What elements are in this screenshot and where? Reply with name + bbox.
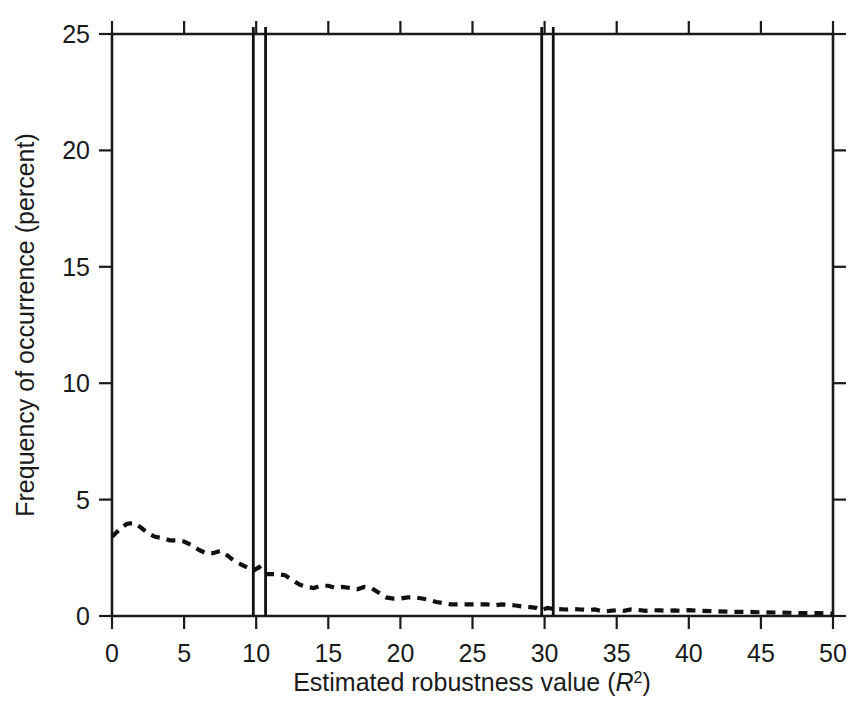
xaxis-tick-label: 45 [747,639,775,667]
xaxis-tick-label: 0 [105,639,119,667]
xaxis-tick-label: 50 [819,639,847,667]
yaxis-tick-label: 15 [62,253,90,281]
yaxis-tick-label: 0 [76,602,90,630]
xaxis-ticks-top [112,21,833,34]
yaxis-tick-labels: 0510152025 [62,20,90,630]
vertical-reference-lines [253,27,553,616]
yaxis-ticks-left [99,34,112,616]
xaxis-tick-label: 5 [177,639,191,667]
xaxis-tick-label: 10 [242,639,270,667]
yaxis-tick-label: 10 [62,369,90,397]
xaxis-tick-label: 15 [314,639,342,667]
xaxis-tick-label: 35 [603,639,631,667]
yaxis-title: Frequency of occurrence (percent) [11,133,39,517]
yaxis-ticks-right [833,34,846,616]
xaxis-tick-label: 20 [386,639,414,667]
xaxis-ticks-bottom [112,616,833,629]
xaxis-title: Estimated robustness value (R2) [293,668,651,696]
yaxis-tick-label: 5 [76,486,90,514]
xaxis-tick-label: 30 [531,639,559,667]
xaxis-tick-labels: 05101520253035404550 [105,639,847,667]
yaxis-tick-label: 25 [62,20,90,48]
frequency-curve [112,523,833,614]
figure-container: 05101520253035404550 0510152025 Estimate… [0,0,862,713]
chart-canvas: 05101520253035404550 0510152025 Estimate… [0,0,862,713]
xaxis-tick-label: 25 [459,639,487,667]
plot-frame [112,34,833,616]
yaxis-tick-label: 20 [62,136,90,164]
xaxis-tick-label: 40 [675,639,703,667]
